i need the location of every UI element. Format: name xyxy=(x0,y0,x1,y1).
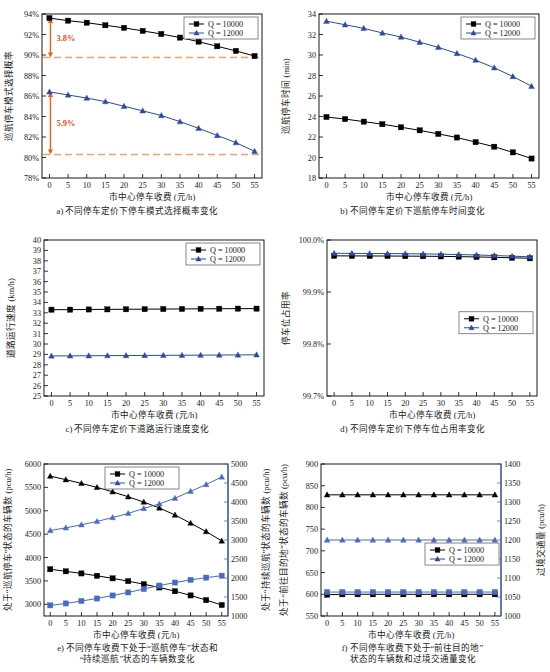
x-tick-label: 20 xyxy=(401,399,409,408)
y-tick-label: 750 xyxy=(306,525,318,534)
legend-label-series1: Q = 10000 xyxy=(208,20,243,29)
x-tick-label: 50 xyxy=(476,619,484,628)
data-point-marker xyxy=(48,603,53,608)
y-tick-label: 80% xyxy=(24,154,39,163)
data-point-marker xyxy=(252,53,257,58)
y-tick-label: 6000 xyxy=(25,460,41,469)
x-tick-label: 55 xyxy=(252,399,260,408)
x-tick-label: 35 xyxy=(430,619,438,628)
chart-panel-f: 5506006507007508008509001000105011001150… xyxy=(275,448,550,672)
x-tick-label: 25 xyxy=(416,181,424,190)
y-tick-label: 34 xyxy=(33,298,41,307)
x-axis-label: 市中心停车收费 (元/h) xyxy=(386,191,473,202)
x-tick-label: 25 xyxy=(141,399,149,408)
x-tick-label: 35 xyxy=(178,399,186,408)
legend-d: Q = 10000Q = 12000 xyxy=(459,312,533,334)
x-tick-label: 50 xyxy=(509,181,517,190)
x-axis-label: 市中心停车收费 (元/h) xyxy=(389,409,476,420)
y-tick-label: 650 xyxy=(306,569,318,578)
x-tick-label: 10 xyxy=(354,619,362,628)
chart-svg-a: 78%80%82%84%86%88%90%92%94%0510152025303… xyxy=(0,0,275,224)
data-point-marker xyxy=(219,573,224,578)
y-tick-label: 32 xyxy=(308,31,316,40)
chart-svg-f: 5506006507007508008509001000105011001150… xyxy=(275,448,550,672)
data-point-marker xyxy=(355,589,360,594)
legend-c: Q = 10000Q = 12000 xyxy=(186,243,260,265)
x-tick-label: 55 xyxy=(527,181,535,190)
y-tick-label: 25 xyxy=(33,392,41,401)
data-point-marker xyxy=(471,22,476,27)
data-point-marker xyxy=(103,23,108,28)
x-tick-label: 15 xyxy=(93,619,101,628)
x-axis-label: 市中心停车收费 (元/h) xyxy=(93,629,180,640)
data-point-marker xyxy=(233,48,238,53)
panel-caption: a) 不同停车定价下停车模式选择概率变化 xyxy=(57,205,219,216)
x-tick-label: 40 xyxy=(472,181,480,190)
legend-label-series2: Q = 12000 xyxy=(208,29,243,38)
y-tick-label: 26 xyxy=(308,92,316,101)
legend-label-series1: Q = 10000 xyxy=(449,546,484,555)
x-tick-label: 10 xyxy=(83,181,91,190)
x-tick-label: 45 xyxy=(460,619,468,628)
y-tick-label: 700 xyxy=(306,547,318,556)
panel-caption: b) 不同停车定价下巡航停车时间变化 xyxy=(340,205,484,216)
x-tick-label: 30 xyxy=(415,619,423,628)
y-tick-label: 27 xyxy=(33,371,41,380)
x-axis-label: 市中心停车收费 (元/h) xyxy=(109,191,196,202)
panel-caption: c) 不同停车定价下道路运行速度变化 xyxy=(66,423,210,434)
x-tick-label: 15 xyxy=(383,399,391,408)
x-tick-label: 30 xyxy=(437,399,445,408)
x-tick-label: 45 xyxy=(490,399,498,408)
annotation-label: 5.9% xyxy=(56,119,75,128)
y2-tick-label: 2000 xyxy=(231,574,247,583)
y-tick-label: 28 xyxy=(308,72,316,81)
x-tick-label: 35 xyxy=(453,181,461,190)
x-tick-label: 20 xyxy=(384,619,392,628)
x-tick-label: 5 xyxy=(64,619,68,628)
data-point-marker xyxy=(63,569,68,574)
x-tick-label: 0 xyxy=(48,619,52,628)
panel-caption-line1: f) 不同停车收费下处于“前往目的地” xyxy=(342,642,484,653)
x-tick-label: 55 xyxy=(526,399,534,408)
x-tick-label: 55 xyxy=(218,619,226,628)
data-point-marker xyxy=(196,248,201,253)
data-point-marker xyxy=(386,589,391,594)
data-point-marker xyxy=(115,472,120,477)
y-tick-label: 100.0% xyxy=(299,236,324,245)
data-point-marker xyxy=(140,28,145,33)
data-point-marker xyxy=(492,144,497,149)
y-tick-label: 38 xyxy=(33,257,41,266)
data-point-marker xyxy=(401,589,406,594)
y-tick-label: 900 xyxy=(306,460,318,469)
y-tick-label: 34 xyxy=(308,10,316,19)
x-tick-label: 30 xyxy=(434,181,442,190)
legend-label-series2: Q = 12000 xyxy=(449,555,484,564)
y-axis-label: 巡航停车模式选择概率 xyxy=(3,51,14,141)
data-point-marker xyxy=(188,577,193,582)
data-point-marker xyxy=(417,128,422,133)
y-tick-label: 88% xyxy=(24,72,39,81)
x-tick-label: 5 xyxy=(350,399,354,408)
y2-tick-label: 1300 xyxy=(504,498,520,507)
y-tick-label: 31 xyxy=(33,330,41,339)
x-tick-label: 25 xyxy=(124,619,132,628)
y-tick-label: 18 xyxy=(308,174,316,183)
y2-tick-label: 3000 xyxy=(231,536,247,545)
x-tick-label: 5 xyxy=(340,619,344,628)
x-tick-label: 10 xyxy=(366,399,374,408)
x-tick-label: 15 xyxy=(369,619,377,628)
data-point-marker xyxy=(177,35,182,40)
data-point-marker xyxy=(194,22,199,27)
data-point-marker xyxy=(204,597,209,602)
x-tick-label: 40 xyxy=(171,619,179,628)
data-point-marker xyxy=(121,25,126,30)
data-point-marker xyxy=(86,307,91,312)
data-point-marker xyxy=(123,307,128,312)
y2-tick-label: 1050 xyxy=(504,593,520,602)
y2-tick-label: 1150 xyxy=(504,555,520,564)
chart-svg-c: 2526272829303132333435363738394005101520… xyxy=(0,224,275,448)
y-tick-label: 20 xyxy=(308,154,316,163)
y2-tick-label: 1350 xyxy=(504,479,520,488)
data-point-marker xyxy=(217,306,222,311)
y-tick-label: 90% xyxy=(24,51,39,60)
